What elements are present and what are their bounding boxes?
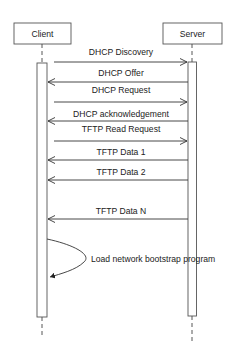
svg-text:DHCP Request: DHCP Request <box>92 85 151 95</box>
message-dhcp-discovery: DHCP Discovery <box>54 47 187 62</box>
svg-text:TFTP Data N: TFTP Data N <box>96 206 146 216</box>
svg-text:DHCP Discovery: DHCP Discovery <box>89 47 154 57</box>
message-tftp-data-n: TFTP Data N <box>48 206 188 219</box>
svg-text:TFTP Read Request: TFTP Read Request <box>82 124 161 134</box>
server-activation-bar <box>188 62 197 316</box>
participant-client-label: Client <box>32 29 55 39</box>
participant-server-label: Server <box>180 29 205 39</box>
sequence-diagram: Client Server DHCP Discovery DHCP Offer … <box>0 0 231 361</box>
svg-text:DHCP Offer: DHCP Offer <box>98 68 144 78</box>
message-tftp-read-request: TFTP Read Request <box>54 124 187 141</box>
svg-text:DHCP acknowledgement: DHCP acknowledgement <box>73 109 169 119</box>
message-dhcp-request: DHCP Request <box>54 85 187 102</box>
message-tftp-data-2: TFTP Data 2 <box>48 167 188 180</box>
svg-text:TFTP Data 2: TFTP Data 2 <box>96 167 145 177</box>
participant-client: Client <box>14 23 71 44</box>
svg-text:Load network bootstrap program: Load network bootstrap program <box>91 254 215 264</box>
svg-text:TFTP Data 1: TFTP Data 1 <box>96 147 145 157</box>
message-dhcp-offer: DHCP Offer <box>48 68 188 82</box>
message-dhcp-acknowledgement: DHCP acknowledgement <box>48 109 188 121</box>
participant-server: Server <box>163 23 222 44</box>
message-tftp-data-1: TFTP Data 1 <box>48 147 188 160</box>
client-activation-bar <box>37 63 47 317</box>
